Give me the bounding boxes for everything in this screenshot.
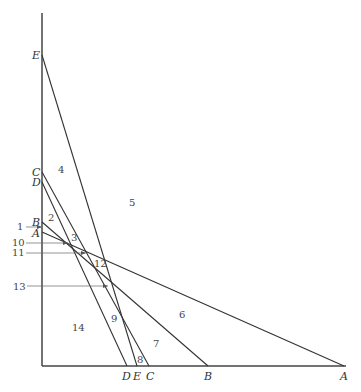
label-A-vertical: A: [31, 227, 40, 240]
pointer-11-label: 11: [12, 247, 25, 258]
line-D: [42, 182, 127, 366]
region-5: 5: [129, 197, 135, 208]
region-2: 2: [48, 212, 54, 223]
label-E-vertical: E: [31, 49, 40, 62]
pointer-1-label: 1: [17, 221, 23, 232]
region-6: 6: [179, 309, 185, 320]
region-14: 14: [72, 322, 85, 333]
line-arrangement-diagram: E C D B A D E C B A 4 5 2 3 12 6 9 14 7 …: [0, 0, 361, 392]
region-3: 3: [71, 232, 77, 243]
line-B: [42, 222, 208, 366]
pointer-13-label: 13: [13, 281, 26, 292]
label-C-horizontal: C: [146, 370, 155, 383]
label-A-horizontal: A: [339, 370, 348, 383]
label-D-horizontal: D: [121, 370, 131, 383]
region-7: 7: [153, 338, 159, 349]
label-E-horizontal: E: [132, 370, 141, 383]
region-9: 9: [111, 313, 117, 324]
line-E: [42, 55, 137, 366]
region-8: 8: [137, 354, 143, 365]
line-A: [42, 232, 344, 366]
region-4: 4: [58, 164, 64, 175]
label-D-vertical: D: [31, 176, 41, 189]
region-12: 12: [94, 258, 107, 269]
label-B-horizontal: B: [203, 370, 212, 383]
